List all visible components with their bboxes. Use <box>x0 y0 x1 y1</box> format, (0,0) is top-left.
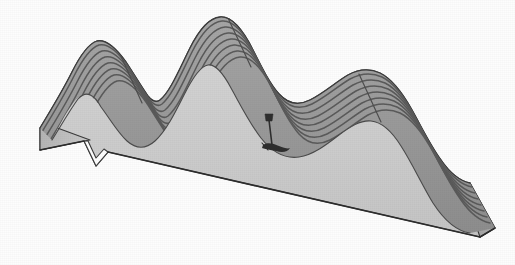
surface-plot-canvas <box>0 0 515 265</box>
figure-root <box>0 0 515 265</box>
